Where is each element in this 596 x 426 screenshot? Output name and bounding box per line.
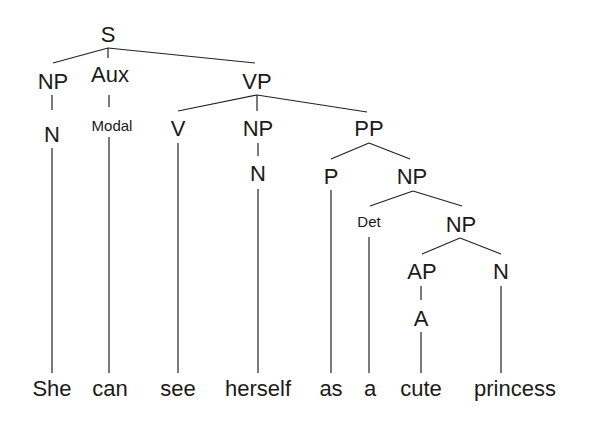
edge-vp-v: [178, 95, 257, 111]
edge-np-np: [413, 191, 462, 206]
word-herself: herself: [225, 376, 292, 401]
node-modal: Modal: [92, 117, 133, 134]
edge-s-vp: [108, 48, 255, 63]
node-a: A: [414, 306, 429, 331]
word-see: see: [160, 376, 195, 401]
word-princess: princess: [474, 376, 556, 401]
node-n-object: N: [250, 161, 266, 186]
word-as: as: [319, 376, 342, 401]
syntax-tree: S NP N Aux Modal VP V NP N PP P NP Det N…: [0, 0, 596, 426]
node-np-inner: NP: [446, 212, 477, 237]
edge-np-det: [370, 191, 413, 206]
word-she: She: [32, 376, 71, 401]
edge-s-np: [53, 48, 108, 63]
node-p: P: [324, 164, 339, 189]
edge-pp-np: [369, 143, 410, 159]
node-np-pp: NP: [397, 164, 428, 189]
node-det: Det: [357, 213, 381, 230]
edge-vp-pp: [257, 95, 367, 112]
word-a: a: [364, 376, 377, 401]
word-cute: cute: [400, 376, 442, 401]
node-ap: AP: [407, 259, 436, 284]
node-np-subject: NP: [38, 69, 69, 94]
node-s: S: [101, 22, 116, 47]
node-n-subject: N: [44, 122, 60, 147]
node-aux: Aux: [91, 62, 129, 87]
word-can: can: [92, 376, 127, 401]
node-n-inner: N: [493, 259, 509, 284]
node-v: V: [171, 116, 186, 141]
node-pp: PP: [354, 116, 383, 141]
node-np-object: NP: [243, 116, 274, 141]
edge-np-n: [460, 238, 501, 254]
edge-np-ap: [422, 238, 460, 254]
edge-pp-p: [331, 143, 369, 159]
node-vp: VP: [242, 69, 271, 94]
